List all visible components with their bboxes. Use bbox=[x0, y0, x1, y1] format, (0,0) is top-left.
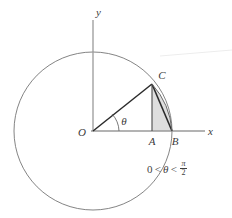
faint-guide-line bbox=[160, 50, 232, 56]
inequality-annotation: 0 < θ < π 2 bbox=[147, 160, 187, 178]
inequality-relation-1: < bbox=[155, 163, 161, 175]
inequality-upper-bound-fraction: π 2 bbox=[180, 160, 187, 178]
inequality-lower-bound: 0 bbox=[147, 163, 153, 175]
theta-angle-arc bbox=[112, 114, 119, 131]
point-label-O: O bbox=[78, 126, 86, 138]
geometry-figure: y x O A B C θ 0 < θ < π 2 bbox=[0, 0, 232, 218]
fraction-denominator: 2 bbox=[181, 169, 187, 177]
fraction-numerator: π bbox=[181, 160, 187, 168]
figure-canvas: y x O A B C θ bbox=[0, 0, 232, 218]
point-label-C: C bbox=[158, 69, 166, 81]
point-label-A: A bbox=[148, 135, 156, 147]
theta-label: θ bbox=[121, 115, 127, 127]
x-axis-label: x bbox=[207, 125, 213, 137]
inequality-variable: θ bbox=[163, 163, 169, 175]
y-axis-label: y bbox=[95, 6, 101, 18]
inequality-relation-2: < bbox=[171, 163, 177, 175]
point-label-B: B bbox=[172, 135, 179, 147]
